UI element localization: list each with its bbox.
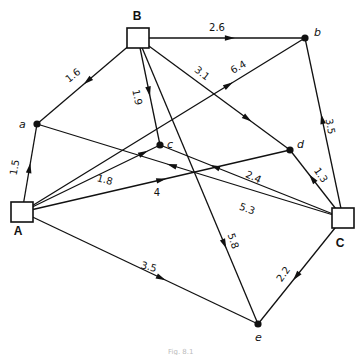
edge-weight-label: 4 bbox=[154, 187, 160, 198]
edge-weight-label: 3.5 bbox=[324, 118, 338, 136]
edge-weight-label: 5.8 bbox=[226, 232, 241, 251]
edge-weight-label: 5.3 bbox=[238, 201, 257, 217]
edge-B-a bbox=[37, 38, 138, 124]
node-dot-b bbox=[301, 34, 308, 41]
node-label-a: a bbox=[19, 118, 26, 131]
arrowhead-icon bbox=[156, 178, 166, 183]
node-dot-c bbox=[156, 141, 163, 148]
edge-weight-label: 2.2 bbox=[274, 264, 292, 283]
arrowhead-icon bbox=[156, 273, 166, 280]
edge-weight-label: 1.5 bbox=[8, 159, 22, 177]
node-label-C: C bbox=[336, 236, 345, 250]
edge-weight-label: 1.8 bbox=[96, 172, 114, 187]
node-label-b: b bbox=[314, 26, 321, 39]
node-label-d: d bbox=[297, 138, 305, 151]
arrowhead-icon bbox=[225, 35, 235, 41]
node-label-B: B bbox=[133, 9, 142, 23]
edge-B-b bbox=[138, 35, 305, 41]
edge-weight-label: 6.4 bbox=[229, 58, 248, 75]
arrowhead-icon bbox=[223, 82, 233, 90]
node-label-A: A bbox=[14, 224, 23, 238]
edge-weight-label: 1.9 bbox=[130, 88, 144, 106]
node-square-A bbox=[11, 202, 33, 222]
edge-A-a bbox=[22, 124, 37, 212]
edge-weight-label: 2.4 bbox=[244, 168, 263, 185]
node-dot-a bbox=[33, 120, 40, 127]
nodes-layer bbox=[11, 28, 354, 328]
network-diagram: 2.61.61.93.15.81.56.41.843.53.51.32.45.3… bbox=[0, 0, 363, 355]
node-label-e: e bbox=[255, 331, 262, 344]
edge-weight-label: 1.6 bbox=[63, 66, 82, 84]
graph-svg: 2.61.61.93.15.81.56.41.843.53.51.32.45.3… bbox=[0, 0, 363, 355]
arrowhead-icon bbox=[220, 238, 226, 248]
node-square-C bbox=[332, 208, 354, 228]
node-square-B bbox=[127, 28, 149, 48]
node-label-c: c bbox=[167, 138, 173, 151]
arrowhead-icon bbox=[242, 113, 252, 121]
edge-weight-label: 3.5 bbox=[140, 259, 158, 274]
arrowhead-icon bbox=[145, 86, 150, 96]
node-dot-d bbox=[286, 146, 293, 153]
figure-caption: Fig. 8.1 bbox=[168, 348, 194, 355]
node-dot-e bbox=[254, 320, 261, 327]
edge-C-e bbox=[258, 218, 343, 324]
edge-weight-label: 2.6 bbox=[209, 22, 225, 33]
arrowhead-icon bbox=[167, 164, 177, 170]
